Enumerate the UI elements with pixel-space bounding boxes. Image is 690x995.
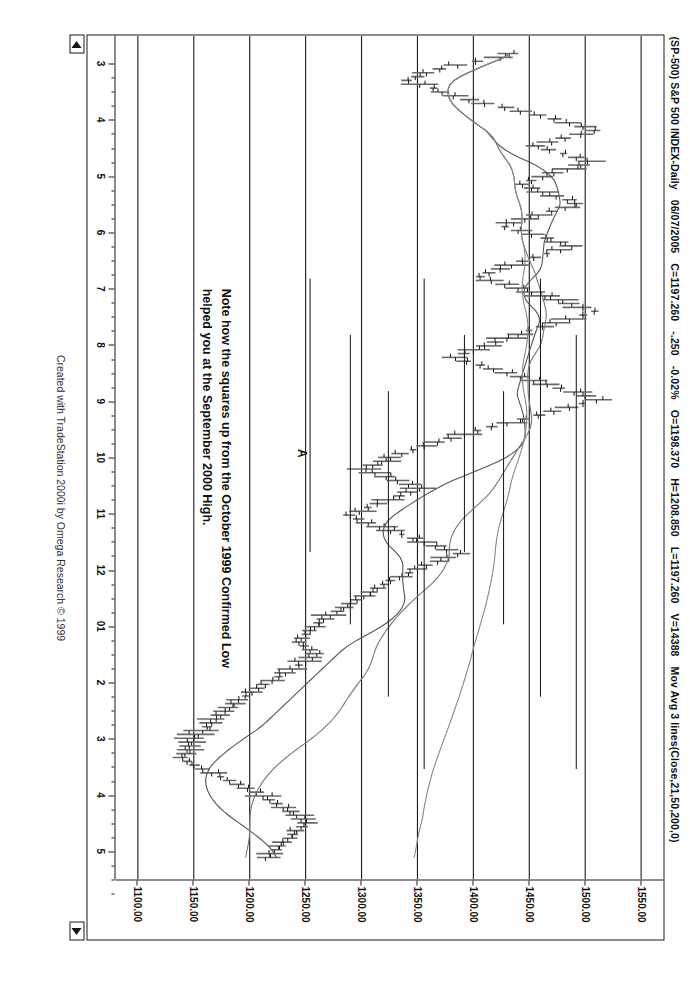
price-tick — [416, 880, 417, 885]
date-tick-minor — [111, 710, 114, 711]
date-tick-minor — [111, 148, 114, 149]
scroll-right-button[interactable] — [69, 921, 84, 940]
quote-change: -.250 — [668, 331, 680, 355]
date-tick — [108, 682, 114, 683]
date-tick-minor — [111, 766, 114, 767]
chart-annotation: Note how the squares up from the October… — [196, 288, 235, 667]
date-tick-minor — [111, 724, 114, 725]
pivot-marker-label: A — [294, 449, 308, 458]
date-tick — [108, 738, 114, 739]
date-tick-minor — [111, 471, 114, 472]
date-tick — [108, 851, 114, 852]
date-tick — [108, 176, 114, 177]
date-tick-label: 7 — [94, 285, 105, 291]
date-tick-minor — [111, 133, 114, 134]
date-tick-minor — [111, 415, 114, 416]
annotation-line-1: Note how the squares up from the October… — [215, 288, 234, 667]
price-tick — [192, 880, 193, 885]
date-tick-minor — [111, 77, 114, 78]
scroll-left-button[interactable] — [69, 34, 84, 53]
quote-high: H=1208.850 — [668, 478, 680, 537]
date-tick-minor — [111, 499, 114, 500]
date-tick-minor — [111, 541, 114, 542]
plot-area[interactable]: Note how the squares up from the October… — [115, 35, 663, 879]
date-tick-label: 11 — [94, 508, 105, 519]
date-tick — [108, 63, 114, 64]
quote-low: L=1197.260 — [668, 546, 680, 603]
date-tick-minor — [111, 330, 114, 331]
date-tick-minor — [111, 584, 114, 585]
date-tick-label: 12 — [94, 564, 105, 575]
date-tick-minor — [111, 865, 114, 866]
date-tick-minor — [111, 387, 114, 388]
date-tick-minor — [111, 893, 114, 894]
date-axis[interactable]: 3456789101112012345 — [87, 35, 115, 879]
price-tick-label: 1550.00 — [635, 886, 646, 922]
price-tick-label: 1350.00 — [411, 886, 422, 922]
indicator-label: Mov Avg 3 lines(Close,21,50,200,0) — [668, 666, 680, 842]
date-tick-minor — [111, 373, 114, 374]
price-tick — [528, 880, 529, 885]
date-tick-minor — [111, 105, 114, 106]
date-tick-minor — [111, 640, 114, 641]
date-tick — [108, 288, 114, 289]
date-tick-minor — [111, 612, 114, 613]
chart-sheet: (SP-500) S&P 500 INDEX-Daily 06/07/2005 … — [0, 0, 690, 995]
date-tick-minor — [111, 752, 114, 753]
date-tick — [108, 401, 114, 402]
price-tick — [136, 880, 137, 885]
date-tick-minor — [111, 879, 114, 880]
date-tick — [108, 344, 114, 345]
date-tick — [108, 232, 114, 233]
quote-open: O=1198.370 — [668, 409, 680, 468]
screenshot-page: (SP-500) S&P 500 INDEX-Daily 06/07/2005 … — [0, 0, 690, 995]
annotation-line-2: helped you at the September 2000 High. — [196, 288, 215, 667]
date-tick-minor — [111, 823, 114, 824]
price-tick — [304, 880, 305, 885]
quote-date: 06/07/2005 — [668, 199, 680, 253]
price-tick-label: 1500.00 — [579, 886, 590, 922]
date-tick-minor — [111, 190, 114, 191]
date-tick — [108, 513, 114, 514]
date-tick-minor — [111, 555, 114, 556]
price-axis[interactable]: 1550.001500.001450.001400.001350.001300.… — [115, 879, 663, 939]
date-tick-minor — [111, 668, 114, 669]
price-tick — [584, 880, 585, 885]
quote-close: C=1197.260 — [668, 263, 680, 321]
date-tick-minor — [111, 260, 114, 261]
date-tick-minor — [111, 246, 114, 247]
footer-credit: Created with TradeStation 2000i by Omega… — [54, 0, 66, 995]
triangle-right-icon — [72, 927, 82, 934]
quote-title-bar: (SP-500) S&P 500 INDEX-Daily 06/07/2005 … — [666, 36, 682, 941]
date-tick-minor — [111, 809, 114, 810]
date-tick-label: 5 — [94, 848, 105, 854]
date-tick-minor — [111, 485, 114, 486]
date-tick-label: 4 — [94, 117, 105, 123]
date-tick-minor — [111, 218, 114, 219]
date-tick-minor — [111, 429, 114, 430]
price-tick — [472, 880, 473, 885]
date-tick-label: 10 — [94, 451, 105, 462]
date-tick — [108, 570, 114, 571]
date-tick-label: 8 — [94, 342, 105, 348]
date-tick-minor — [111, 316, 114, 317]
date-tick-minor — [111, 598, 114, 599]
price-tick — [248, 880, 249, 885]
chart-window[interactable]: Note how the squares up from the October… — [86, 34, 664, 940]
price-tick-label: 1300.00 — [356, 886, 367, 922]
symbol-label: (SP-500) S&P 500 INDEX-Daily — [668, 36, 680, 189]
date-tick-minor — [111, 837, 114, 838]
quote-change-pct: -0.02% — [668, 365, 680, 399]
date-tick-label: 9 — [94, 398, 105, 404]
date-tick-minor — [111, 781, 114, 782]
date-tick-minor — [111, 302, 114, 303]
price-tick-label: 1200.00 — [244, 886, 255, 922]
date-tick-label: 5 — [94, 173, 105, 179]
date-tick-minor — [111, 274, 114, 275]
date-tick-label: 4 — [94, 792, 105, 798]
price-tick-label: 1250.00 — [300, 886, 311, 922]
date-tick-minor — [111, 654, 114, 655]
date-tick-minor — [111, 359, 114, 360]
date-tick-label: 6 — [94, 229, 105, 235]
date-tick-minor — [111, 527, 114, 528]
